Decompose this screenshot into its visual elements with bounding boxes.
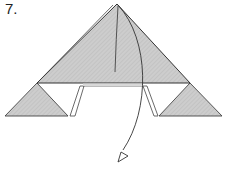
left-flap-strip <box>70 86 84 116</box>
right-flap-strip <box>143 86 158 116</box>
right-small-triangle <box>159 83 222 116</box>
large-top-triangle <box>37 4 190 86</box>
origami-diagram <box>0 0 228 170</box>
left-small-triangle <box>5 83 68 116</box>
